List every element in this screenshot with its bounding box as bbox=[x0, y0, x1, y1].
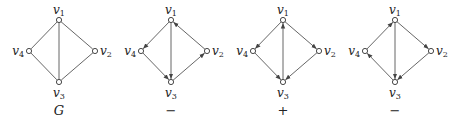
vertex-v2 bbox=[204, 48, 209, 53]
edge-v1-v4 bbox=[255, 22, 281, 49]
graph-caption: − bbox=[390, 103, 401, 118]
graph-caption: − bbox=[166, 103, 177, 118]
vertex-label-v3: v3 bbox=[277, 86, 289, 101]
vertex-v3 bbox=[280, 79, 285, 84]
graph-2: v1v2v3v4− bbox=[124, 3, 224, 118]
edge-v1-v2 bbox=[285, 22, 317, 49]
edge-v4-v3 bbox=[255, 53, 281, 80]
vertex-label-v1: v1 bbox=[389, 3, 401, 18]
graph-caption: + bbox=[278, 103, 289, 118]
vertex-v3 bbox=[56, 79, 61, 84]
vertex-v4 bbox=[138, 48, 143, 53]
vertex-v4 bbox=[250, 48, 255, 53]
vertex-label-v4: v4 bbox=[12, 44, 24, 59]
vertex-v2 bbox=[92, 48, 97, 53]
graph-caption: G bbox=[54, 103, 64, 118]
edge-v1-v2 bbox=[61, 22, 93, 49]
vertex-v2 bbox=[316, 48, 321, 53]
vertex-label-v2: v2 bbox=[436, 44, 448, 59]
edge-v4-v1 bbox=[367, 22, 393, 49]
edge-v2-v3 bbox=[397, 53, 429, 80]
edge-v2-v3 bbox=[61, 53, 93, 80]
vertex-label-v4: v4 bbox=[348, 44, 360, 59]
vertex-v1 bbox=[280, 17, 285, 22]
vertex-label-v3: v3 bbox=[389, 86, 401, 101]
vertex-v1 bbox=[392, 17, 397, 22]
edge-v4-v3 bbox=[31, 53, 57, 80]
graph-3: v1v2v3v4+ bbox=[236, 3, 336, 118]
vertex-v2 bbox=[428, 48, 433, 53]
vertex-label-v3: v3 bbox=[53, 86, 65, 101]
edge-v2-v3 bbox=[285, 53, 317, 80]
vertex-label-v2: v2 bbox=[100, 44, 112, 59]
vertex-label-v1: v1 bbox=[165, 3, 177, 18]
edge-v1-v2 bbox=[397, 22, 429, 49]
vertex-v1 bbox=[56, 17, 61, 22]
vertex-label-v3: v3 bbox=[165, 86, 177, 101]
graph-4: v1v2v3v4− bbox=[348, 3, 448, 118]
edge-v3-v2 bbox=[173, 53, 205, 80]
graph-1: v1v2v3v4G bbox=[12, 3, 112, 118]
vertex-label-v4: v4 bbox=[236, 44, 248, 59]
edge-v1-v4 bbox=[143, 22, 169, 49]
edge-v3-v4 bbox=[367, 53, 393, 80]
graph-figure: v1v2v3v4Gv1v2v3v4−v1v2v3v4+v1v2v3v4− bbox=[0, 0, 457, 128]
vertex-label-v2: v2 bbox=[324, 44, 336, 59]
vertex-v3 bbox=[392, 79, 397, 84]
vertex-label-v4: v4 bbox=[124, 44, 136, 59]
vertex-v4 bbox=[26, 48, 31, 53]
edge-v4-v3 bbox=[143, 53, 169, 80]
vertex-label-v1: v1 bbox=[53, 3, 65, 18]
edge-v1-v4 bbox=[31, 22, 57, 49]
vertex-label-v1: v1 bbox=[277, 3, 289, 18]
vertex-v4 bbox=[362, 48, 367, 53]
vertex-v1 bbox=[168, 17, 173, 22]
vertex-label-v2: v2 bbox=[212, 44, 224, 59]
vertex-v3 bbox=[168, 79, 173, 84]
edge-v2-v1 bbox=[173, 22, 205, 49]
